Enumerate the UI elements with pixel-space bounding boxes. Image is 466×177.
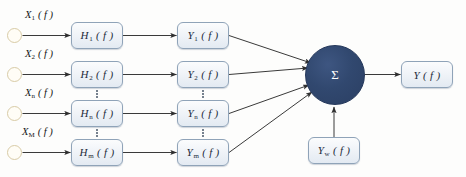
transfer-label-n: Hn( f ) (81, 107, 114, 121)
edge-y2-sum (229, 68, 308, 75)
ellipsis-output-upper (201, 90, 205, 98)
transfer-label-m: Hm( f ) (80, 146, 115, 160)
ellipsis-output-lower (201, 129, 205, 137)
source-arg-2: ( f ) (35, 48, 53, 59)
diagram-canvas: X1( f ) X2( f ) Xn( f ) XM( f ) H1( f ) … (0, 0, 466, 177)
summation-node[interactable]: Σ (305, 45, 365, 105)
output-block-m[interactable]: Ym( f ) (177, 139, 229, 166)
source-arg-n: ( f ) (35, 87, 53, 98)
source-circle-M[interactable] (7, 145, 22, 160)
source-label-n: Xn( f ) (25, 87, 53, 100)
transfer-block-n[interactable]: Hn( f ) (71, 100, 123, 127)
output-label-2: Y2( f ) (187, 68, 218, 82)
source-label-M: XM( f ) (22, 126, 53, 139)
noise-label: Yw( f ) (318, 144, 351, 158)
source-label-1: X1( f ) (25, 9, 53, 22)
transfer-label-2: H2( f ) (81, 68, 114, 82)
transfer-block-2[interactable]: H2( f ) (71, 61, 123, 88)
output-block-1[interactable]: Y1( f ) (177, 22, 229, 49)
final-output-block[interactable]: Y( f ) (401, 61, 453, 88)
output-block-n[interactable]: Yn( f ) (177, 100, 229, 127)
sigma-icon: Σ (331, 67, 339, 83)
source-circle-1[interactable] (7, 28, 22, 43)
source-circle-2[interactable] (7, 67, 22, 82)
ellipsis-transfer-lower (95, 129, 99, 137)
output-block-2[interactable]: Y2( f ) (177, 61, 229, 88)
edge-yn-sum (229, 85, 309, 114)
final-output-label: Y( f ) (414, 69, 441, 81)
transfer-block-1[interactable]: H1( f ) (71, 22, 123, 49)
connector-layer (0, 0, 466, 177)
output-label-m: Ym( f ) (186, 146, 219, 160)
source-arg-M: ( f ) (35, 126, 53, 137)
source-subscript-M: M (28, 131, 34, 139)
output-label-n: Yn( f ) (187, 107, 218, 121)
noise-block[interactable]: Yw( f ) (308, 137, 360, 164)
source-arg-1: ( f ) (35, 9, 53, 20)
edge-ym-sum (229, 92, 312, 153)
transfer-block-m[interactable]: Hm( f ) (71, 139, 123, 166)
source-label-2: X2( f ) (25, 48, 53, 61)
output-label-1: Y1( f ) (187, 29, 218, 43)
transfer-label-1: H1( f ) (81, 29, 114, 43)
ellipsis-transfer-upper (95, 90, 99, 98)
source-circle-n[interactable] (7, 106, 22, 121)
edge-y1-sum (229, 36, 311, 64)
